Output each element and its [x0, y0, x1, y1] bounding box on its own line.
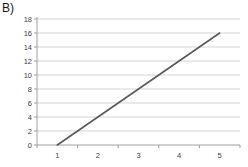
- x-tick-label: 3: [136, 151, 140, 160]
- x-tick-label: 4: [177, 151, 181, 160]
- x-tick-label: 5: [218, 151, 222, 160]
- y-tick-label: 16: [24, 29, 32, 38]
- y-tick-label: 2: [28, 127, 32, 136]
- x-tick-label: 2: [96, 151, 100, 160]
- y-tick-label: 12: [24, 57, 32, 66]
- x-tick-label: 1: [55, 151, 59, 160]
- y-tick-label: 18: [24, 15, 32, 24]
- y-tick-label: 4: [28, 113, 32, 122]
- y-tick-label: 10: [24, 71, 32, 80]
- y-tick-label: 14: [24, 43, 32, 52]
- y-tick-label: 6: [28, 99, 32, 108]
- y-tick-label: 8: [28, 85, 32, 94]
- y-tick-label: 0: [28, 141, 32, 150]
- line-chart: 02468101214161812345: [0, 0, 248, 167]
- chart-panel: B) 02468101214161812345: [0, 0, 248, 167]
